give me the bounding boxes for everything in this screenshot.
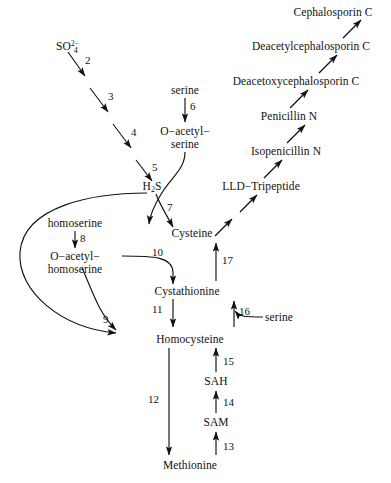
- step-number-6: 6: [190, 100, 196, 112]
- label-o-acetyl-homoserine: O−acetyl− homoserine: [48, 250, 103, 276]
- step-number-15: 15: [223, 355, 234, 367]
- arrow-step-10: [122, 256, 173, 284]
- label-homocysteine: Homocysteine: [156, 333, 224, 346]
- step-number-17: 17: [222, 254, 233, 266]
- label-serine-mid: serine: [265, 311, 293, 324]
- label-isopenicillin-n: Isopenicillin N: [251, 145, 321, 158]
- arrow-lld-to-isopenicillin: [264, 160, 282, 178]
- label-deacetoxycephalosporin-c: Deacetoxycephalosporin C: [233, 75, 360, 88]
- label-cephalosporin-c: Cephalosporin C: [293, 6, 372, 19]
- step-number-8: 8: [80, 232, 86, 244]
- arrow-isopenicillin-to-penicillin: [287, 125, 305, 143]
- label-methionine: Methionine: [163, 459, 217, 472]
- arrow-step-9: [82, 268, 116, 330]
- label-cysteine: Cysteine: [171, 227, 212, 240]
- step-number-9: 9: [103, 313, 109, 325]
- label-homoserine: homoserine: [48, 217, 103, 230]
- label-sam: SAM: [203, 416, 228, 429]
- step-number-3: 3: [108, 90, 114, 102]
- label-o-acetyl-serine: O−acetyl− serine: [160, 125, 210, 151]
- arrow-cysteine-to-lld-b: [240, 195, 257, 212]
- step-number-16: 16: [239, 305, 250, 317]
- step-number-2: 2: [85, 54, 91, 66]
- step-number-4: 4: [131, 126, 137, 138]
- label-sah: SAH: [204, 375, 227, 388]
- label-serine-top: serine: [171, 84, 199, 97]
- label-sulfate: SO2−4: [56, 38, 78, 58]
- pathway-diagram-page: SO2−4 serine O−acetyl− serine H2S Cystei…: [0, 0, 391, 483]
- arrow-step-4: [113, 124, 131, 148]
- step-number-7: 7: [167, 201, 173, 213]
- step-number-12: 12: [148, 393, 159, 405]
- arrow-penicillin-to-deacetoxy: [290, 90, 308, 108]
- label-cystathionine: Cystathionine: [154, 285, 219, 298]
- arrow-step-5: [136, 160, 152, 181]
- label-deacetylcephalosporin-c: Deacetylcephalosporin C: [252, 40, 370, 53]
- arrow-cysteine-to-lld-a: [215, 219, 232, 236]
- step-number-5: 5: [152, 161, 158, 173]
- pathway-arrows-svg: [0, 0, 391, 483]
- label-penicillin-n: Penicillin N: [261, 110, 317, 123]
- label-lld-tripeptide: LLD−Tripeptide: [222, 180, 300, 193]
- arrow-step-3: [90, 88, 108, 112]
- step-number-11: 11: [152, 303, 163, 315]
- label-h2s: H2S: [142, 180, 161, 197]
- arrow-deacetoxy-to-deacetyl: [319, 55, 337, 73]
- step-number-10: 10: [152, 246, 163, 258]
- arrow-deacetyl-to-cephalosporin: [343, 20, 361, 38]
- step-number-14: 14: [223, 396, 234, 408]
- step-number-13: 13: [223, 440, 234, 452]
